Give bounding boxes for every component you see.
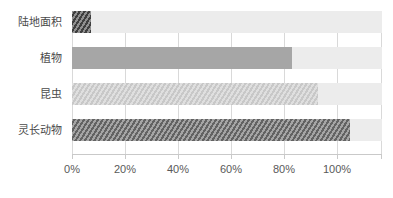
category-axis-labels: 陆地面积 植物 昆虫 灵长动物	[0, 11, 66, 154]
x-tick-label-0: 0%	[42, 162, 102, 176]
bar-insects[interactable]	[72, 83, 318, 105]
x-axis-tick-labels: 0% 20% 40% 60% 80% 100%	[0, 162, 393, 178]
bar-track-insects	[72, 83, 382, 105]
plot-area	[72, 11, 382, 154]
category-label-plants: 植物	[0, 52, 62, 64]
x-tick-0	[72, 155, 73, 159]
category-label-land-area: 陆地面积	[0, 16, 62, 28]
x-tick-right-edge	[381, 155, 382, 159]
bar-chart: 陆地面积 植物 昆虫 灵长动物	[0, 0, 393, 198]
x-axis-ticks	[72, 155, 382, 159]
x-tick-label-100: 100%	[307, 162, 367, 176]
x-tick-100	[337, 155, 338, 159]
x-tick-80	[284, 155, 285, 159]
bar-track-land-area	[72, 11, 382, 33]
category-label-primates: 灵长动物	[0, 124, 62, 136]
category-label-insects: 昆虫	[0, 88, 62, 100]
bar-track-plants	[72, 47, 382, 69]
x-tick-label-40: 40%	[148, 162, 208, 176]
bar-plants[interactable]	[72, 47, 292, 69]
x-tick-40	[178, 155, 179, 159]
bar-primates[interactable]	[72, 119, 350, 141]
x-tick-label-60: 60%	[201, 162, 261, 176]
bar-track-primates	[72, 119, 382, 141]
bar-land-area[interactable]	[72, 11, 91, 33]
x-tick-60	[231, 155, 232, 159]
x-tick-label-80: 80%	[254, 162, 314, 176]
x-tick-label-20: 20%	[95, 162, 155, 176]
x-tick-20	[125, 155, 126, 159]
